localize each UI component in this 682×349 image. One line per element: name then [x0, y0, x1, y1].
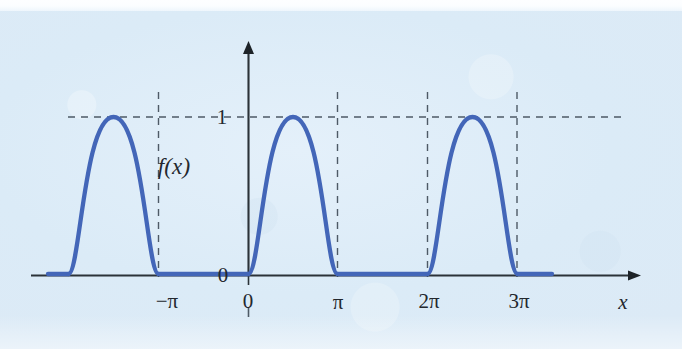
y-axis-arrowhead — [243, 41, 254, 54]
function-label: f(x) — [158, 155, 191, 178]
curve-hump-3 — [428, 117, 518, 274]
x-axis-arrowhead — [628, 271, 641, 281]
curve-hump-1 — [69, 117, 159, 274]
y-tick-label-0: 0 — [218, 265, 229, 286]
y-tick-label-1: 1 — [217, 107, 228, 128]
x-tick-label-3pi: 3π — [508, 291, 529, 312]
figure-canvas: 1 0 −π 0 π 2π 3π x f(x) — [0, 0, 682, 349]
x-tick-label-pi: π — [333, 292, 344, 313]
function-curve — [48, 117, 552, 274]
x-tick-label-origin: 0 — [243, 291, 254, 312]
x-axis-label: x — [618, 292, 627, 313]
curve-hump-2 — [249, 117, 338, 274]
x-tick-label-2pi: 2π — [418, 291, 439, 312]
x-tick-label-minus-pi: −π — [156, 291, 178, 312]
